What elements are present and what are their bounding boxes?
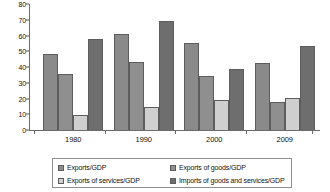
x-axis-category-label: 2000	[194, 135, 234, 144]
bar-group	[254, 4, 316, 130]
bar	[214, 100, 229, 130]
legend-swatch-icon	[58, 165, 64, 171]
legend-label: Exports/GDP	[67, 164, 106, 172]
y-axis: 01020304050607080	[4, 4, 26, 130]
legend-item[interactable]: Exports of services/GDP	[58, 177, 170, 185]
bar	[73, 115, 88, 130]
y-axis-tick-mark	[26, 130, 29, 131]
legend-label: Exports of services/GDP	[67, 177, 140, 185]
y-axis-tick-mark	[26, 51, 29, 52]
legend-label: Exports of goods/GDP	[179, 164, 246, 172]
y-axis-tick-label: 40	[19, 64, 26, 71]
x-axis-tick-mark	[246, 130, 247, 134]
bar	[129, 62, 144, 131]
y-axis-tick-label: 70	[19, 16, 26, 23]
bar-group	[183, 4, 245, 130]
y-axis-tick-mark	[26, 82, 29, 83]
legend-swatch-icon	[58, 178, 64, 184]
x-axis-tick-mark	[34, 130, 35, 134]
y-axis-tick-mark	[26, 114, 29, 115]
bar	[255, 63, 270, 130]
y-axis-tick-mark	[26, 19, 29, 20]
bar	[270, 102, 285, 130]
x-axis-category-label: 1990	[124, 135, 164, 144]
chart-legend: Exports/GDPExports of goods/GDPExports o…	[52, 158, 292, 188]
bar	[199, 76, 214, 130]
y-axis-tick-mark	[26, 35, 29, 36]
legend-item[interactable]: Exports/GDP	[58, 164, 170, 172]
legend-swatch-icon	[170, 178, 176, 184]
bar-group	[113, 4, 175, 130]
legend-swatch-icon	[170, 165, 176, 171]
bar	[285, 98, 300, 130]
bar	[144, 107, 159, 130]
y-axis-tick-mark	[26, 4, 29, 5]
bar	[229, 69, 244, 130]
x-axis-tick-mark	[312, 130, 313, 134]
plot-area: 01020304050607080 1980199020002009	[0, 4, 330, 146]
y-axis-tick-label: 80	[19, 1, 26, 8]
x-axis-category-label: 2009	[265, 135, 305, 144]
legend-item[interactable]: Exports of goods/GDP	[170, 164, 287, 172]
bar	[159, 21, 174, 130]
bar-group	[42, 4, 104, 130]
legend-item[interactable]: Imports of goods and services/GDP	[170, 177, 287, 185]
y-axis-tick-mark	[26, 67, 29, 68]
bar	[88, 39, 103, 130]
y-axis-tick-mark	[26, 98, 29, 99]
y-axis-tick-label: 30	[19, 79, 26, 86]
y-axis-tick-label: 10	[19, 111, 26, 118]
y-axis-tick-label: 50	[19, 48, 26, 55]
y-axis-tick-label: 20	[19, 95, 26, 102]
y-axis-tick-label: 60	[19, 32, 26, 39]
bar	[300, 46, 315, 130]
bar	[43, 54, 58, 130]
bar	[58, 74, 73, 130]
bars-area	[30, 4, 320, 130]
x-axis-category-label: 1980	[53, 135, 93, 144]
bar-chart-figure: 01020304050607080 1980199020002009 Expor…	[0, 0, 330, 192]
x-axis-tick-mark	[105, 130, 106, 134]
x-axis-tick-mark	[175, 130, 176, 134]
legend-label: Imports of goods and services/GDP	[179, 177, 285, 185]
bar	[184, 43, 199, 130]
bar	[114, 34, 129, 130]
